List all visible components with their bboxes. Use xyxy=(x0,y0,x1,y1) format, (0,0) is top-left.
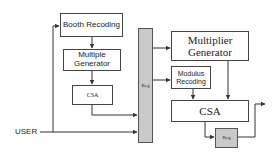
left-csa-block: CSA xyxy=(72,85,113,105)
user-input-label: USER xyxy=(15,127,37,136)
right-csa-block: CSA xyxy=(171,100,249,122)
modulus-recoding-label: Modulus Recoding xyxy=(174,70,208,85)
register-column: Reg xyxy=(138,28,153,143)
booth-recoding-label: Booth Recoding xyxy=(63,21,120,30)
multiplier-generator-label: Multiplier Generator xyxy=(180,34,240,58)
right-csa-label: CSA xyxy=(199,105,220,117)
multiplier-generator-block: Multiplier Generator xyxy=(171,31,249,61)
output-register-block: Reg xyxy=(215,128,238,148)
left-csa-label: CSA xyxy=(87,92,99,99)
multiple-generator-label: Multiple Generator xyxy=(70,51,114,69)
modulus-recoding-block: Modulus Recoding xyxy=(171,66,211,89)
architecture-diagram: Booth Recoding Multiple Generator CSA US… xyxy=(0,0,276,157)
register-column-label: Reg xyxy=(141,83,149,89)
booth-recoding-block: Booth Recoding xyxy=(60,13,123,37)
output-register-label: Reg xyxy=(222,135,230,141)
multiple-generator-block: Multiple Generator xyxy=(63,49,121,71)
